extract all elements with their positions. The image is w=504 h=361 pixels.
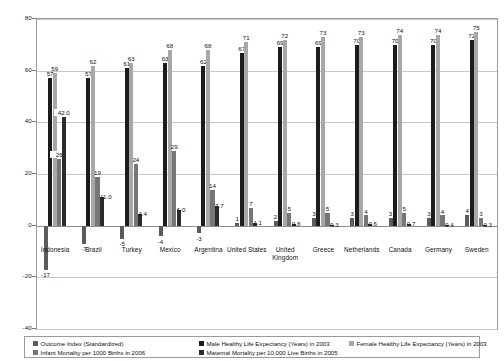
bar[interactable] [91,66,95,226]
bar-value-label: 68 [199,42,217,49]
bar[interactable] [57,159,61,226]
bar[interactable] [235,223,239,226]
bar[interactable] [172,151,176,226]
legend-swatch-icon [199,350,204,355]
bar-series-container: -1757592642.0-757621911.0-56163244.4-463… [37,19,497,329]
y-tick-label--40: -40 [0,324,32,331]
legend-item[interactable]: Maternal Mortality per 10,000 Live Birth… [199,348,338,357]
y-tick-mark-20 [32,173,36,174]
bar[interactable] [431,45,435,226]
bar[interactable] [398,35,402,226]
legend-item[interactable]: Infant Mortality per 1000 Births in 2006 [33,348,145,357]
bar[interactable] [206,50,210,226]
bar[interactable] [100,197,104,225]
bar-group: 3697350.3 [305,19,343,329]
bar-value-label: 75 [467,24,485,31]
legend-label: Maternal Mortality per 10,000 Live Birth… [207,349,338,356]
bar-group: -36268147.7 [190,19,228,329]
bar[interactable] [440,215,444,225]
x-axis-label: Canada [379,246,421,254]
x-axis-category-labels: IndonesiaBrazilTurkeyMexicoArgentinaUnit… [36,246,498,280]
bar[interactable] [62,117,66,226]
bar[interactable] [159,226,163,236]
bar-value-label: 7 [242,200,260,207]
bar-group: 3707340.6 [344,19,382,329]
bar[interactable] [364,215,368,225]
x-axis-label: Sweden [456,246,498,254]
x-axis-label: Mexico [149,246,191,254]
bar[interactable] [244,42,248,225]
bar[interactable] [389,218,393,226]
bar[interactable] [134,164,138,226]
y-tick-label-0: 0 [0,221,32,228]
legend-swatch-icon [199,341,204,346]
bar[interactable] [436,35,440,226]
bar[interactable] [474,32,478,226]
y-tick-mark-60 [32,70,36,71]
bar-value-label: 3 [472,210,490,217]
bar[interactable] [283,40,287,226]
legend-item[interactable]: Male Healthy Life Expectancy (Years) in … [199,339,330,348]
bar[interactable] [249,208,253,226]
x-axis-label: Indonesia [34,246,76,254]
bar[interactable] [470,40,474,226]
bar[interactable] [120,226,124,239]
bar-value-label: 71 [237,34,255,41]
legend-item[interactable]: Female Healthy Life Expectancy (Years) i… [349,339,487,348]
x-axis-label: Turkey [111,246,153,254]
bar[interactable] [479,218,483,226]
legend-item[interactable]: Outcome Index (Standardized) [33,339,124,348]
bar[interactable] [402,213,406,226]
bar-value-label: 68 [161,42,179,49]
y-tick-label--20: -20 [0,272,32,279]
legend-label: Infant Mortality per 1000 Births in 2006 [41,349,146,356]
bar[interactable] [321,37,325,226]
bar-group: -56163244.4 [114,19,152,329]
bar[interactable] [359,37,363,226]
bar[interactable] [129,63,133,226]
bar[interactable] [201,66,205,226]
bar-group: 2697250.8 [267,19,305,329]
bar[interactable] [287,213,291,226]
bar-group: -1757592642.0 [37,19,75,329]
legend-swatch-icon [33,341,38,346]
bar[interactable] [465,215,469,225]
plot-area: -1757592642.0-757621911.0-56163244.4-463… [36,18,498,330]
bar-group: -46368296.0 [152,19,190,329]
bar-value-label: 62 [84,58,102,65]
y-tick-label-20: 20 [0,169,32,176]
bar[interactable] [210,190,214,226]
x-axis-label: Argentina [187,246,229,254]
bar-value-label: 24 [127,156,145,163]
bar[interactable] [274,221,278,226]
bar-value-label: 74 [391,27,409,34]
bar[interactable] [278,47,282,225]
bar[interactable] [53,73,57,225]
bar-group: 3707440.4 [420,19,458,329]
legend-label: Female Healthy Life Expectancy (Years) i… [357,340,487,347]
y-tick-label-40: 40 [0,117,32,124]
bar[interactable] [316,47,320,225]
bar[interactable] [86,78,90,225]
bar-value-label: 73 [352,29,370,36]
legend-label: Outcome Index (Standardized) [41,340,124,347]
x-axis-label: United States [226,246,268,254]
bar[interactable] [82,226,86,244]
bar[interactable] [95,177,99,226]
bar-group: 1677171.1 [229,19,267,329]
bar[interactable] [355,45,359,226]
gridline--40 [37,329,497,330]
bar[interactable] [168,50,172,226]
bar-group: 3707450.7 [382,19,420,329]
bar-value-label: 72 [276,32,294,39]
bar[interactable] [125,68,129,226]
bar[interactable] [427,218,431,226]
bar[interactable] [350,218,354,226]
chart-legend: Outcome Index (Standardized)Male Healthy… [24,336,480,358]
bar[interactable] [325,213,329,226]
bar[interactable] [393,45,397,226]
bar[interactable] [197,226,201,234]
x-axis-label: Netherlands [341,246,383,254]
bar-group: 4727530.3 [459,19,497,329]
bar[interactable] [312,218,316,226]
